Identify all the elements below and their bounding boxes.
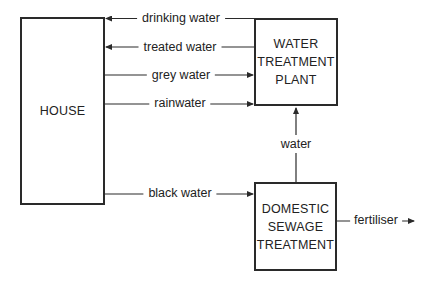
water-treatment-plant-label: WATER TREATMENT PLANT <box>257 35 334 89</box>
water-treatment-plant-label-line: WATER <box>257 35 334 53</box>
water-label: water <box>280 135 313 153</box>
drinking-water-label: drinking water <box>137 11 225 25</box>
domestic-sewage-treatment-label: DOMESTIC SEWAGE TREATMENT <box>257 200 334 254</box>
house-label: HOUSE <box>40 102 85 120</box>
rainwater-label: rainwater <box>149 96 210 110</box>
water-treatment-plant-node: WATER TREATMENT PLANT <box>254 18 338 106</box>
sewage-label-line: SEWAGE <box>257 218 334 236</box>
water-treatment-plant-label-line: PLANT <box>257 71 334 89</box>
water-treatment-plant-label-line: TREATMENT <box>257 53 334 71</box>
domestic-sewage-treatment-node: DOMESTIC SEWAGE TREATMENT <box>254 182 337 271</box>
grey-water-label: grey water <box>147 68 215 82</box>
treated-water-label: treated water <box>139 40 222 54</box>
black-water-label: black water <box>143 186 216 200</box>
sewage-label-line: TREATMENT <box>257 236 334 254</box>
fertiliser-label: fertiliser <box>350 213 402 227</box>
house-label-line: HOUSE <box>40 102 85 120</box>
house-node: HOUSE <box>20 17 105 205</box>
sewage-label-line: DOMESTIC <box>257 200 334 218</box>
